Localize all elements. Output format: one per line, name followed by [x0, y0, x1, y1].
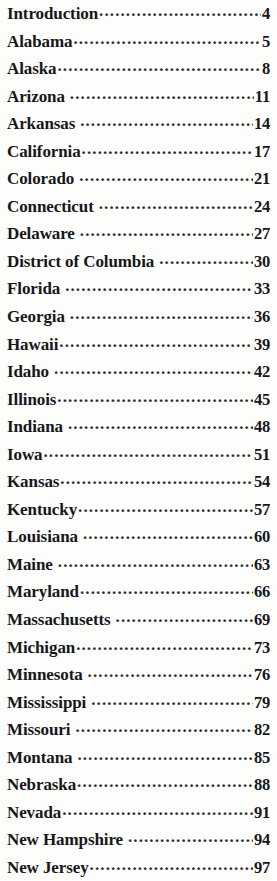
toc-entry[interactable]: Indiana48: [0, 413, 277, 441]
toc-entry-title: Introduction: [7, 0, 98, 28]
toc-leader-dots: [99, 2, 261, 19]
toc-entry[interactable]: District of Columbia30: [0, 248, 277, 276]
toc-leader-dots: [128, 828, 253, 845]
toc-entry-page-number: 60: [254, 523, 270, 551]
toc-entry-title: Iowa: [7, 441, 43, 469]
toc-leader-dots: [159, 250, 253, 267]
toc-entry-title: Massachusetts: [7, 606, 111, 634]
toc-entry[interactable]: Iowa51: [0, 441, 277, 469]
toc-entry[interactable]: Delaware27: [0, 220, 277, 248]
toc-entry[interactable]: Missouri82: [0, 716, 277, 744]
toc-entry-title: Montana: [7, 744, 72, 772]
toc-entry[interactable]: Montana85: [0, 744, 277, 772]
toc-entry-page-number: 54: [254, 468, 270, 496]
toc-leader-dots: [79, 167, 253, 184]
toc-entry[interactable]: Connecticut24: [0, 193, 277, 221]
toc-entry[interactable]: Alaska8: [0, 55, 277, 83]
toc-entry[interactable]: Introduction4: [0, 0, 277, 28]
toc-leader-dots: [54, 360, 253, 377]
toc-entry-page-number: 45: [254, 386, 270, 414]
toc-entry-title: Indiana: [7, 413, 63, 441]
toc-entry-page-number: 17: [254, 138, 270, 166]
toc-entry-title: Delaware: [7, 220, 75, 248]
toc-entry[interactable]: Arkansas14: [0, 110, 277, 138]
toc-entry[interactable]: Maine63: [0, 551, 277, 579]
toc-leader-dots: [70, 305, 253, 322]
toc-entry-page-number: 5: [262, 28, 270, 56]
toc-leader-dots: [60, 470, 253, 487]
toc-entry-page-number: 88: [254, 771, 270, 799]
toc-entry[interactable]: Florida33: [0, 275, 277, 303]
toc-entry-page-number: 24: [254, 193, 270, 221]
toc-entry[interactable]: Kansas54: [0, 468, 277, 496]
toc-entry-title: Kansas: [7, 468, 59, 496]
toc-entry[interactable]: New Hampshire94: [0, 826, 277, 854]
toc-entry-page-number: 73: [254, 634, 270, 662]
toc-leader-dots: [75, 718, 252, 735]
toc-leader-dots: [83, 525, 253, 542]
toc-leader-dots: [80, 580, 253, 597]
toc-entry[interactable]: Hawaii39: [0, 331, 277, 359]
toc-leader-dots: [68, 415, 253, 432]
toc-entry-page-number: 11: [255, 83, 270, 111]
toc-entry[interactable]: Louisiana60: [0, 523, 277, 551]
toc-entry-page-number: 42: [254, 358, 270, 386]
toc-entry-title: Hawaii: [7, 331, 58, 359]
toc-entry-title: Arkansas: [7, 110, 75, 138]
toc-entry-page-number: 91: [254, 799, 270, 827]
toc-entry-title: Arizona: [7, 83, 65, 111]
toc-entry[interactable]: Idaho42: [0, 358, 277, 386]
toc-leader-dots: [44, 443, 253, 460]
toc-entry-page-number: 94: [254, 826, 270, 854]
toc-leader-dots: [77, 746, 252, 763]
toc-leader-dots: [70, 85, 254, 102]
toc-entry[interactable]: Illinois45: [0, 386, 277, 414]
toc-entry-title: New Hampshire: [7, 826, 123, 854]
toc-entry-title: Mississippi: [7, 689, 86, 717]
toc-leader-dots: [91, 691, 253, 708]
toc-entry[interactable]: Nevada91: [0, 799, 277, 827]
toc-entry-page-number: 57: [254, 496, 270, 524]
toc-entry-title: Maine: [7, 551, 53, 579]
toc-leader-dots: [76, 636, 253, 653]
toc-entry[interactable]: Arizona11: [0, 83, 277, 111]
toc-entry-page-number: 97: [254, 854, 270, 881]
toc-leader-dots: [116, 608, 253, 625]
toc-entry-title: California: [7, 138, 81, 166]
toc-entry-page-number: 14: [254, 110, 270, 138]
toc-entry[interactable]: Colorado21: [0, 165, 277, 193]
toc-entry-page-number: 63: [254, 551, 270, 579]
toc-entry-page-number: 27: [254, 220, 270, 248]
toc-entry[interactable]: Massachusetts69: [0, 606, 277, 634]
toc-entry-page-number: 76: [254, 661, 270, 689]
toc-entry[interactable]: Minnesota76: [0, 661, 277, 689]
toc-entry-title: Louisiana: [7, 523, 78, 551]
toc-leader-dots: [57, 388, 253, 405]
toc-entry[interactable]: Kentucky57: [0, 496, 277, 524]
toc-entry-title: Idaho: [7, 358, 49, 386]
toc-entry-page-number: 4: [262, 0, 270, 28]
toc-entry-title: Illinois: [7, 386, 56, 414]
toc-entry-page-number: 30: [254, 248, 270, 276]
toc-entry-page-number: 21: [254, 165, 270, 193]
toc-leader-dots: [65, 277, 253, 294]
toc-entry-page-number: 66: [254, 578, 270, 606]
toc-entry[interactable]: Alabama5: [0, 28, 277, 56]
toc-leader-dots: [99, 195, 253, 212]
toc-entry-page-number: 85: [254, 744, 270, 772]
toc-entry-page-number: 39: [254, 331, 270, 359]
toc-entry-page-number: 48: [254, 413, 270, 441]
toc-entry[interactable]: Nebraska88: [0, 771, 277, 799]
toc-leader-dots: [73, 30, 261, 47]
toc-entry-title: Nevada: [7, 799, 61, 827]
toc-entry-title: Kentucky: [7, 496, 77, 524]
toc-entry[interactable]: California17: [0, 138, 277, 166]
toc-entry[interactable]: New Jersey97: [0, 854, 277, 881]
toc-entry[interactable]: Maryland66: [0, 578, 277, 606]
toc-entry[interactable]: Michigan73: [0, 634, 277, 662]
toc-entry[interactable]: Mississippi79: [0, 689, 277, 717]
toc-leader-dots: [80, 222, 253, 239]
toc-entry[interactable]: Georgia36: [0, 303, 277, 331]
toc-entry-title: Alaska: [7, 55, 56, 83]
toc-entry-title: Georgia: [7, 303, 65, 331]
